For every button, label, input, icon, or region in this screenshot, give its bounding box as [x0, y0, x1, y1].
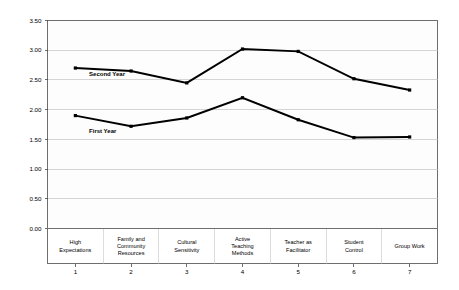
data-point-marker	[352, 136, 355, 139]
data-point-marker	[185, 81, 188, 84]
y-axis-tick-label: 1.50	[29, 136, 42, 143]
data-point-marker	[74, 66, 77, 69]
y-axis-tick-label: 3.50	[29, 17, 42, 24]
data-point-marker	[185, 116, 188, 119]
series-label-2: First Year	[89, 128, 117, 134]
y-axis-tick-label: 0.50	[29, 195, 42, 202]
data-point-marker	[74, 114, 77, 117]
x-axis-tick-number: 7	[408, 268, 412, 275]
data-point-marker	[241, 96, 244, 99]
category-label: CulturalSensitivity	[174, 239, 199, 252]
category-label: ActiveTeachingMethods	[231, 236, 253, 257]
category-labels: HighExpectationsFamily andCommunityResou…	[59, 236, 425, 257]
category-label: HighExpectations	[59, 239, 91, 252]
x-axis-tick-number: 3	[185, 268, 189, 275]
y-axis-tick-label: 2.50	[29, 76, 42, 83]
data-point-marker	[408, 88, 411, 91]
plot-area-border	[48, 21, 438, 229]
data-point-marker	[352, 77, 355, 80]
x-axis-tick-number: 4	[241, 268, 245, 275]
series-label-1: Second Year	[89, 71, 126, 77]
y-axis-tick-label: 0.00	[29, 225, 42, 232]
x-axis-tick-number: 2	[129, 268, 133, 275]
x-axis-tick-number: 6	[352, 268, 356, 275]
data-point-marker	[129, 125, 132, 128]
y-axis-tick-label: 2.00	[29, 106, 42, 113]
data-point-marker	[408, 135, 411, 138]
y-axis-tick-labels: 0.000.501.001.502.002.503.003.50	[29, 17, 42, 232]
data-point-marker	[241, 47, 244, 50]
y-axis-tick-label: 3.00	[29, 46, 42, 53]
x-axis-tick-numbers: 1234567	[74, 268, 412, 275]
data-point-marker	[297, 118, 300, 121]
data-point-marker	[129, 69, 132, 72]
y-axis-tick-label: 1.00	[29, 165, 42, 172]
category-label: Family andCommunityResources	[117, 236, 145, 257]
plot-background-layer	[48, 21, 438, 229]
data-point-marker	[297, 50, 300, 53]
x-axis-tick-number: 5	[296, 268, 300, 275]
category-label: StudentControl	[344, 239, 364, 252]
category-label: Group Work	[395, 243, 425, 249]
line-chart: 0.000.501.001.502.002.503.003.50 HighExp…	[0, 0, 459, 290]
x-axis-tick-number: 1	[74, 268, 78, 275]
category-label: Teacher asFacilitator	[285, 239, 313, 252]
chart-container: 0.000.501.001.502.002.503.003.50 HighExp…	[0, 0, 459, 290]
